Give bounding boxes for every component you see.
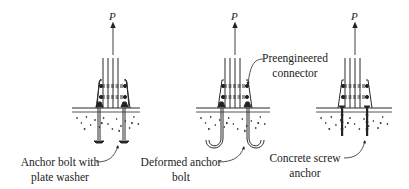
load-label-left: P <box>109 10 116 22</box>
panel-middle <box>196 27 270 162</box>
callout-anchor-bolt: Anchor bolt with plate washer <box>20 155 100 185</box>
callout-deformed-line1: Deformed anchor <box>140 155 222 170</box>
callout-connector-line1: Preengineered <box>260 51 330 66</box>
panel-left <box>72 27 140 162</box>
callout-preengineered-connector: Preengineered connector <box>260 51 330 81</box>
callout-screw-line1: Concrete screw <box>266 151 344 166</box>
callout-connector-line2: connector <box>260 66 330 81</box>
callout-deformed-anchor-bolt: Deformed anchor bolt <box>140 155 222 185</box>
load-label-right: P <box>351 10 358 22</box>
panel-right <box>316 27 392 158</box>
callout-anchor-bolt-line1: Anchor bolt with <box>20 155 100 170</box>
callout-anchor-bolt-line2: plate washer <box>20 170 100 185</box>
callout-concrete-screw-anchor: Concrete screw anchor <box>266 151 344 181</box>
load-label-middle: P <box>231 10 238 22</box>
callout-deformed-line2: bolt <box>140 170 222 185</box>
callout-screw-line2: anchor <box>266 166 344 181</box>
